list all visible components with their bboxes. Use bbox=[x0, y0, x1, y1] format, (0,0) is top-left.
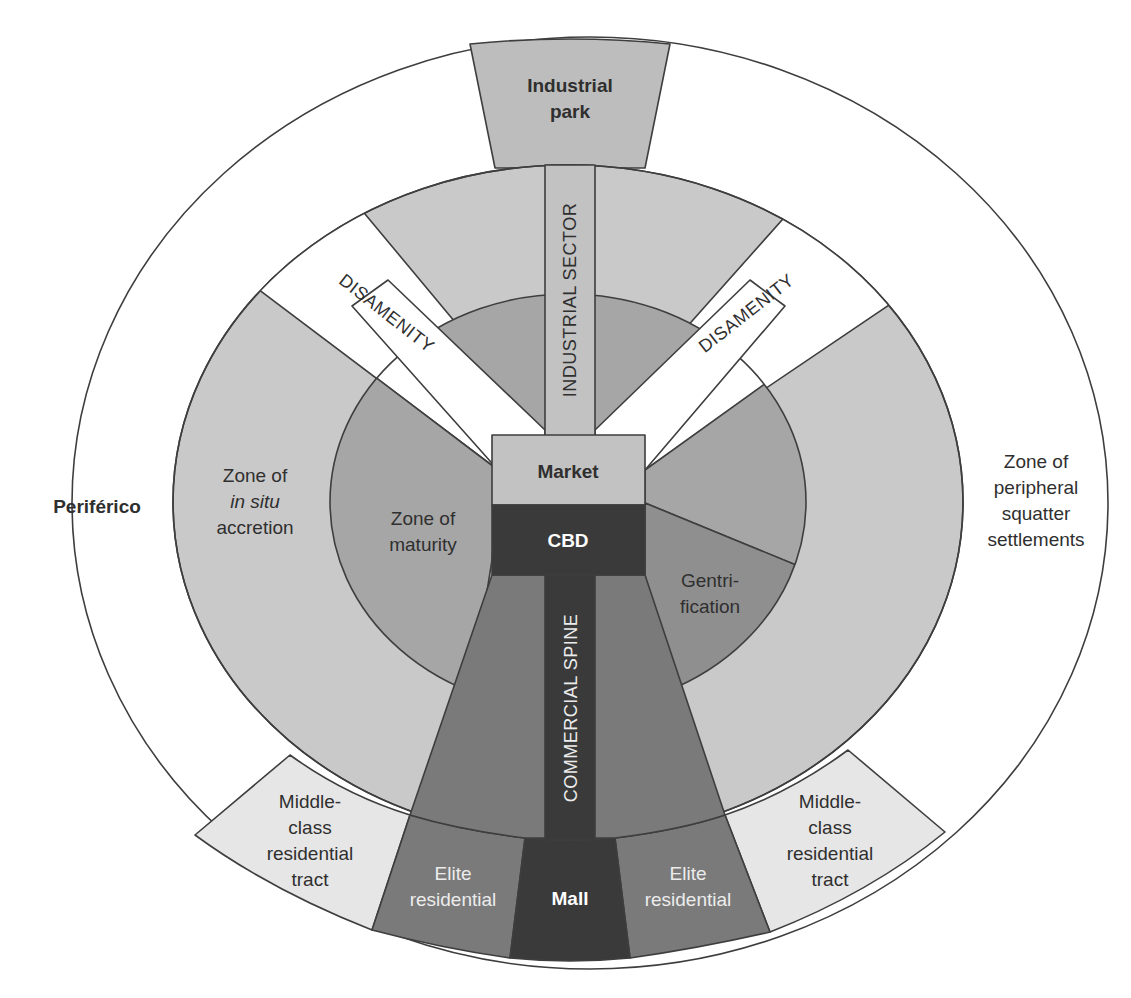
periferico-label: Periférico bbox=[53, 496, 141, 517]
gentrification-label-1: Gentri- bbox=[681, 570, 739, 591]
commercial-spine-label: COMMERCIAL SPINE bbox=[561, 614, 581, 802]
middle-class-right-label-4: tract bbox=[812, 869, 850, 890]
middle-class-left-label-1: Middle- bbox=[279, 791, 341, 812]
elite-right-label-1: Elite bbox=[670, 863, 707, 884]
industrial-park-label: Industrial bbox=[527, 75, 613, 96]
squatter-label-3: squatter bbox=[1002, 503, 1071, 524]
industrial-sector-label: INDUSTRIAL SECTOR bbox=[560, 203, 580, 398]
middle-class-right-label-3: residential bbox=[787, 843, 874, 864]
squatter-label-4: settlements bbox=[987, 529, 1084, 550]
maturity-label-1: Zone of bbox=[391, 508, 456, 529]
in-situ-label-2: in situ bbox=[230, 491, 280, 512]
cbd-label: CBD bbox=[547, 530, 588, 551]
elite-right-label-2: residential bbox=[645, 889, 732, 910]
gentrification-label-2: fication bbox=[680, 596, 740, 617]
middle-class-left-label-2: class bbox=[288, 817, 331, 838]
middle-class-left-label-4: tract bbox=[292, 869, 330, 890]
middle-class-right-label-1: Middle- bbox=[799, 791, 861, 812]
mall-label: Mall bbox=[552, 888, 589, 909]
elite-left-label-2: residential bbox=[410, 889, 497, 910]
elite-left-label-1: Elite bbox=[435, 863, 472, 884]
city-structure-diagram: Industrial park INDUSTRIAL SECTOR DISAME… bbox=[0, 0, 1131, 998]
maturity-label-2: maturity bbox=[389, 534, 457, 555]
squatter-label-2: peripheral bbox=[994, 477, 1079, 498]
middle-class-left-label-3: residential bbox=[267, 843, 354, 864]
market-label: Market bbox=[537, 461, 599, 482]
in-situ-label-3: accretion bbox=[216, 517, 293, 538]
industrial-park-label-2: park bbox=[550, 101, 591, 122]
squatter-label-1: Zone of bbox=[1004, 451, 1069, 472]
in-situ-label-1: Zone of bbox=[223, 465, 288, 486]
middle-class-right-label-2: class bbox=[808, 817, 851, 838]
